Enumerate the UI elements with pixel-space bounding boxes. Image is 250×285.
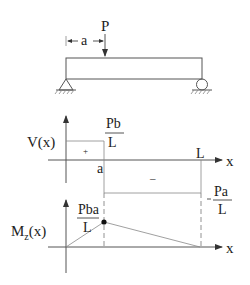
negative-sign: – <box>149 172 156 184</box>
svg-text:L: L <box>108 135 117 150</box>
load-label: P <box>101 18 109 34</box>
peak-point <box>101 219 106 224</box>
beam-figure: P a <box>55 18 212 94</box>
svg-text:Pa: Pa <box>214 184 229 199</box>
a-tick-label: a <box>97 161 104 176</box>
beam-body <box>66 58 202 79</box>
shear-axis-label: V(x) <box>27 134 55 151</box>
moment-diagram: Mz(x) x Pba L <box>11 193 234 273</box>
neg-shear-value: Pa L <box>207 184 232 217</box>
svg-text:Pb: Pb <box>106 116 121 131</box>
distance-label: a <box>81 33 88 48</box>
peak-moment-value: Pba L <box>77 202 100 235</box>
shear-diagram: V(x) x + – a L Pb L Pa L <box>27 116 234 217</box>
svg-text:Pba: Pba <box>78 202 100 217</box>
positive-sign: + <box>83 146 88 156</box>
shear-x-label: x <box>226 153 234 169</box>
beam-diagram: P a <box>0 0 250 285</box>
L-tick-label: L <box>196 146 205 161</box>
moment-x-label: x <box>226 240 234 256</box>
moment-axis-label: Mz(x) <box>11 223 46 242</box>
svg-text:L: L <box>83 220 92 235</box>
svg-text:L: L <box>218 202 227 217</box>
pos-shear-value: Pb L <box>105 116 124 150</box>
pin-support-icon <box>55 79 76 94</box>
roller-support-icon <box>191 79 212 94</box>
